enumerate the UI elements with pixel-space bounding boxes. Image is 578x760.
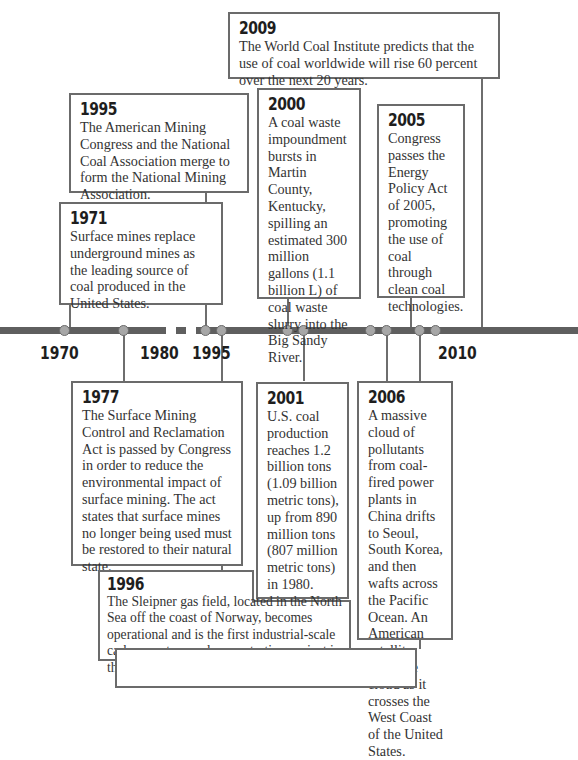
connector-1977 (123, 331, 125, 381)
event-text: Congress passes the Energy Policy Act of… (388, 130, 455, 315)
event-card-2000: 2000 A coal waste impoundment bursts in … (257, 88, 361, 299)
event-text: U.S. coal production reaches 1.2 billion… (267, 408, 339, 593)
axis-label-1980: 1980 (140, 343, 179, 363)
event-year: 1995 (80, 100, 210, 119)
connector-2009 (481, 78, 483, 330)
event-card-2001: 2001 U.S. coal production reaches 1.2 bi… (256, 382, 349, 599)
event-text: A massive cloud of pollutants from coal-… (368, 407, 443, 760)
event-year: 2005 (388, 111, 443, 130)
axis-label-1970: 1970 (40, 343, 79, 363)
event-text: The Surface Mining Control and Reclamati… (82, 407, 233, 575)
timeline-dot-1977 (118, 325, 129, 336)
timeline-dot-1995 (200, 325, 211, 336)
event-text: Surface mines replace underground mines … (70, 228, 213, 312)
timeline-dot-2005 (365, 325, 376, 336)
event-card-1971: 1971 Surface mines replace underground m… (59, 202, 223, 305)
timeline-dot-1971 (59, 325, 70, 336)
timeline-axis-left (0, 327, 166, 334)
event-year: 2006 (368, 388, 430, 407)
event-year: 1971 (70, 209, 187, 228)
timeline-dot-2008 (414, 325, 425, 336)
event-text: The American Mining Congress and the Nat… (80, 119, 239, 203)
axis-label-2010: 2010 (438, 343, 477, 363)
timeline-dot-2006 (381, 325, 392, 336)
event-year: 1977 (82, 388, 206, 407)
event-card-partial-bottom (115, 648, 417, 688)
axis-label-1995: 1995 (192, 343, 231, 363)
event-text: A coal waste impoundment bursts in Marti… (268, 114, 351, 366)
event-card-1995: 1995 The American Mining Congress and th… (69, 93, 249, 193)
connector-2006 (386, 331, 388, 381)
timeline-dot-2009 (430, 325, 441, 336)
event-year: 2001 (267, 389, 326, 408)
event-card-2006: 2006 A massive cloud of pollutants from … (357, 381, 453, 640)
event-year: 2009 (239, 19, 445, 38)
event-year: 1996 (107, 575, 304, 594)
event-card-1977: 1977 The Surface Mining Control and Recl… (71, 381, 243, 566)
event-text: The World Coal Institute predicts that t… (239, 38, 490, 88)
event-year: 2000 (268, 95, 336, 114)
timeline-axis-break-dash (176, 327, 186, 334)
timeline-dot-1996 (216, 325, 227, 336)
event-card-2009: 2009 The World Coal Institute predicts t… (228, 12, 500, 79)
event-card-2005: 2005 Congress passes the Energy Policy A… (377, 104, 465, 298)
